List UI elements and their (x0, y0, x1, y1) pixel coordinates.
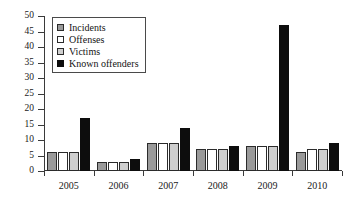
bar (47, 152, 57, 171)
bar (279, 25, 289, 171)
x-axis-tick-label: 2010 (287, 180, 347, 191)
bar (158, 143, 168, 171)
y-axis-tick-label: 50 (0, 11, 34, 20)
y-axis-tick-label: 0 (0, 166, 34, 175)
legend-item-label: Incidents (69, 22, 106, 33)
x-axis-tick (143, 171, 144, 176)
x-axis-tick (292, 171, 293, 176)
y-axis-tick-label: 40 (0, 42, 34, 51)
bar-chart: 05101520253035404550 2005200620072008200… (0, 0, 356, 206)
y-axis-tick-label: 45 (0, 27, 34, 36)
y-axis-tick-label: 10 (0, 135, 34, 144)
y-axis-tick-label: 20 (0, 104, 34, 113)
bar (108, 162, 118, 171)
legend-swatch-icon (57, 60, 64, 67)
bar (169, 143, 179, 171)
legend-item: Incidents (57, 21, 139, 33)
legend-swatch-icon (57, 24, 64, 31)
legend-swatch-icon (57, 36, 64, 43)
y-axis-tick-label: 30 (0, 73, 34, 82)
legend-item-label: Victims (69, 46, 100, 57)
bar (229, 146, 239, 171)
bar (147, 143, 157, 171)
bar (257, 146, 267, 171)
legend-item-label: Known offenders (69, 58, 139, 69)
bar (307, 149, 317, 171)
bar (296, 152, 306, 171)
y-axis-tick-label: 5 (0, 151, 34, 160)
legend-item: Known offenders (57, 57, 139, 69)
y-axis-tick-label: 25 (0, 89, 34, 98)
bar (119, 162, 129, 171)
legend-swatch-icon (57, 48, 64, 55)
bar (218, 149, 228, 171)
bar (130, 159, 140, 171)
bar (329, 143, 339, 171)
legend-item-label: Offenses (69, 34, 104, 45)
bar (180, 128, 190, 171)
legend-item: Offenses (57, 33, 139, 45)
x-axis-tick (44, 171, 45, 176)
bar (196, 149, 206, 171)
x-axis-tick (342, 171, 343, 176)
bar (69, 152, 79, 171)
x-axis-tick (193, 171, 194, 176)
bar (80, 118, 90, 171)
bar (268, 146, 278, 171)
y-axis-tick-label: 15 (0, 120, 34, 129)
x-axis-tick (94, 171, 95, 176)
bar (207, 149, 217, 171)
bar (246, 146, 256, 171)
bar (58, 152, 68, 171)
bar (97, 162, 107, 171)
y-axis-tick-label: 35 (0, 58, 34, 67)
legend-item: Victims (57, 45, 139, 57)
bar (318, 149, 328, 171)
chart-legend: IncidentsOffensesVictimsKnown offenders (52, 17, 146, 73)
x-axis-tick (243, 171, 244, 176)
